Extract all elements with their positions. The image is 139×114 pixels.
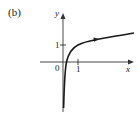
origin-label: 0	[55, 63, 60, 73]
y-tick-label: 1	[55, 40, 60, 50]
graph-canvas	[0, 0, 139, 114]
y-axis-label: y	[55, 8, 59, 18]
log-graph-figure: (b) y x 0 1 1	[0, 0, 139, 114]
x-axis-label: x	[126, 64, 130, 74]
log-curve	[64, 33, 134, 108]
y-axis-arrow-icon	[61, 13, 66, 19]
x-tick-label: 1	[76, 64, 81, 74]
